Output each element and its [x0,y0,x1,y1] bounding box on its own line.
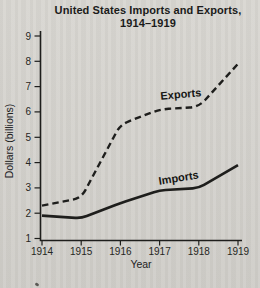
line-chart: Dollars (billions) Year 1234567891914191… [0,0,260,288]
scanned-textbook-page: United States Imports and Exports, 1914–… [0,0,260,288]
y-tick-label: 5 [25,132,31,143]
x-axis-title: Year [130,258,152,270]
x-tick-label: 1917 [148,246,171,257]
y-tick-label: 4 [25,157,31,168]
x-tick-label: 1915 [70,246,93,257]
y-axis-title: Dollars (billions) [3,104,15,179]
x-tick-label: 1914 [31,246,54,257]
y-tick-label: 8 [25,56,31,67]
series-line-exports [42,64,238,206]
series-label-imports: Imports [158,168,200,186]
series-line-imports [42,165,238,218]
y-tick-label: 9 [25,31,31,42]
y-tick-label: 6 [25,106,31,117]
x-tick-label: 1918 [188,246,211,257]
y-tick-label: 3 [25,182,31,193]
y-tick-label: 7 [25,81,31,92]
y-tick-label: 2 [25,208,31,219]
x-tick-label: 1916 [109,246,132,257]
series-label-exports: Exports [160,86,202,102]
axes [41,31,243,241]
x-tick-label: 1919 [227,246,250,257]
y-tick-label: 1 [25,233,31,244]
